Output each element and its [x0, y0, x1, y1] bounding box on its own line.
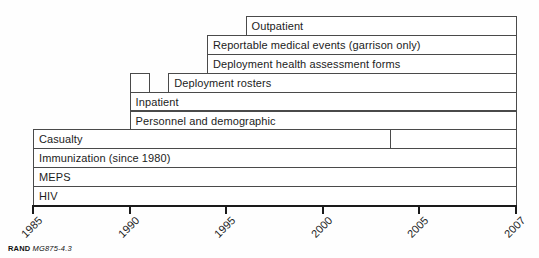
- bar-label-hiv: HIV: [39, 187, 58, 205]
- bar-segment-casualty-1: [390, 129, 517, 149]
- axis-tick-1990: [129, 205, 131, 214]
- axis-tick-1985: [32, 205, 34, 214]
- axis-tick-label-2007: 2007: [489, 214, 527, 252]
- axis-tick-label-2005: 2005: [393, 214, 431, 252]
- bar-segment-inpatient-0: Inpatient: [130, 92, 517, 112]
- axis-tick-2000: [322, 205, 324, 214]
- data-availability-figure: OutpatientReportable medical events (gar…: [0, 0, 539, 258]
- bar-label-deployment-rosters: Deployment rosters: [174, 74, 271, 92]
- bar-segment-deployment-rosters-1: Deployment rosters: [168, 73, 517, 93]
- bar-segment-casualty-0: Casualty: [33, 129, 391, 149]
- bar-segment-outpatient-0: Outpatient: [246, 16, 517, 36]
- axis-tick-label-1990: 1990: [103, 214, 141, 252]
- bar-label-deployment-health-assessment-forms: Deployment health assessment forms: [213, 55, 400, 73]
- axis-tick-1995: [225, 205, 227, 214]
- axis-tick-2005: [418, 205, 420, 214]
- bar-label-immunization-since-1980: Immunization (since 1980): [39, 149, 171, 167]
- bar-segment-deployment-health-assessment-forms-0: Deployment health assessment forms: [207, 54, 517, 74]
- x-axis-line: [32, 205, 517, 207]
- axis-tick-label-1995: 1995: [199, 214, 237, 252]
- bar-label-meps: MEPS: [39, 168, 71, 186]
- bar-segment-immunization-since-1980-0: Immunization (since 1980): [33, 148, 517, 168]
- bar-segment-meps-0: MEPS: [33, 167, 517, 187]
- axis-tick-label-2000: 2000: [296, 214, 334, 252]
- bar-label-casualty: Casualty: [39, 130, 83, 148]
- bar-label-outpatient: Outpatient: [252, 17, 304, 35]
- bar-segment-reportable-medical-events-garrison-only-0: Reportable medical events (garrison only…: [207, 35, 517, 55]
- bar-segment-hiv-0: HIV: [33, 186, 517, 206]
- bar-label-reportable-medical-events-garrison-only: Reportable medical events (garrison only…: [213, 36, 421, 54]
- axis-tick-2007: [515, 205, 517, 214]
- bar-label-personnel-and-demographic: Personnel and demographic: [136, 112, 276, 130]
- bar-segment-personnel-and-demographic-0: Personnel and demographic: [130, 111, 517, 131]
- figure-credit: RANDMG875-4.3: [8, 244, 72, 253]
- bar-segment-deployment-rosters-0: [130, 73, 150, 93]
- bar-label-inpatient: Inpatient: [136, 93, 179, 111]
- rand-brand: RAND: [8, 244, 30, 253]
- figure-id: MG875-4.3: [32, 244, 71, 253]
